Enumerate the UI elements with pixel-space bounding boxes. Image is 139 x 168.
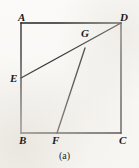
vertex-label-d: D xyxy=(120,12,128,23)
interior-segments xyxy=(21,23,121,133)
vertex-label-g: G xyxy=(81,28,89,39)
figure-caption: (a) xyxy=(59,151,70,161)
vertex-label-c: C xyxy=(119,135,126,146)
segment-FG xyxy=(57,48,85,133)
vertex-label-f: F xyxy=(52,135,59,146)
geometry-figure: A D E G B F C (a) xyxy=(0,0,139,168)
vertex-label-b: B xyxy=(19,135,26,146)
segment-ED xyxy=(21,23,121,78)
vertex-label-a: A xyxy=(18,12,25,23)
vertex-label-e: E xyxy=(10,73,17,84)
square-outline xyxy=(21,23,121,133)
